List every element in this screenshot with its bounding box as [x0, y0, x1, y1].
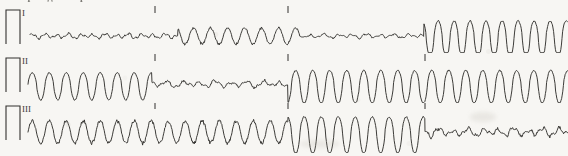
- ecg-page: из переходит в трепетани I II III: [0, 0, 568, 156]
- ecg-waveform-trace: [30, 20, 567, 52]
- lead-label-i: I: [22, 9, 25, 18]
- calibration-pulse: [6, 10, 20, 44]
- lead-label-iii: III: [22, 105, 31, 114]
- calibration-pulse: [6, 58, 20, 92]
- ecg-strip-lead-iii: [0, 102, 568, 154]
- ecg-strip-lead-i: [0, 2, 568, 54]
- ecg-waveform-trace: [28, 70, 568, 103]
- calibration-pulse: [6, 106, 20, 140]
- ecg-strip-lead-ii: [0, 52, 568, 104]
- ecg-waveform-trace: [28, 116, 568, 152]
- lead-label-ii: II: [22, 57, 28, 66]
